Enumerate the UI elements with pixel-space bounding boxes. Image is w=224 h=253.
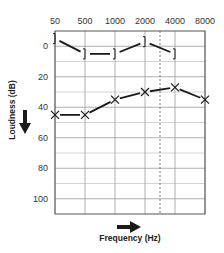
y-tick-label: 100 — [33, 194, 48, 204]
audiogram-chart: 505001000200040008000 020406080100 Loudn… — [0, 0, 224, 253]
y-tick-label: 60 — [38, 133, 48, 143]
x-tick-labels: 505001000200040008000 — [50, 16, 215, 26]
x-tick-label: 2000 — [135, 16, 155, 26]
x-axis-title: Frequency (Hz) — [99, 233, 161, 243]
x-axis-arrow-icon — [117, 221, 141, 233]
x-tick-label: 500 — [77, 16, 92, 26]
x-tick-label: 1000 — [105, 16, 125, 26]
y-axis-title: Loudness (dB) — [7, 80, 17, 140]
y-axis-arrow-icon — [19, 110, 31, 134]
y-tick-labels: 020406080100 — [33, 41, 48, 204]
series-segment — [120, 93, 140, 98]
x-tick-label: 4000 — [165, 16, 185, 26]
x-tick-label: 8000 — [195, 16, 215, 26]
series-segment — [180, 89, 201, 97]
y-tick-label: 40 — [38, 102, 48, 112]
y-tick-label: 80 — [38, 163, 48, 173]
y-tick-label: 20 — [38, 72, 48, 82]
bracket-marker-icon — [53, 34, 55, 44]
bracket-marker-icon — [113, 49, 115, 59]
grid — [55, 31, 205, 214]
y-tick-label: 0 — [43, 41, 48, 51]
bracket-marker-icon — [143, 37, 145, 47]
bracket-marker-icon — [173, 49, 175, 59]
x-tick-label: 50 — [50, 16, 60, 26]
bracket-marker-icon — [83, 49, 85, 59]
series-segment — [120, 44, 141, 52]
